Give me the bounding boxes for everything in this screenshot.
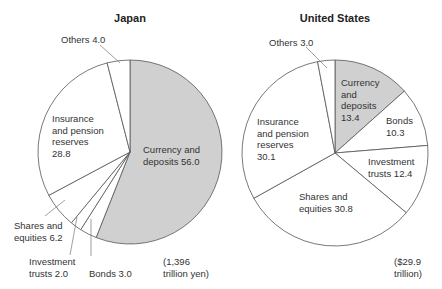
japan-title: Japan	[100, 12, 160, 24]
japan-label-shares: Shares and equities 6.2	[14, 220, 63, 243]
japan-label-currency: Currency and deposits 56.0	[143, 144, 200, 167]
japan-label-investment: Investment trusts 2.0	[29, 256, 75, 279]
japan-label-others: Others 4.0	[61, 34, 105, 46]
us-label-investment: Investment trusts 12.4	[368, 156, 414, 179]
us-total-note: ($29.9 trillion)	[394, 256, 422, 279]
japan-total-note: (1,396 trillion yen)	[163, 256, 209, 279]
japan-label-insurance: Insurance and pension reserves 28.8	[52, 113, 104, 159]
leader-japan-others	[100, 45, 120, 63]
us-label-bonds: Bonds 10.3	[386, 115, 413, 138]
us-label-others: Others 3.0	[269, 37, 313, 49]
us-label-shares: Shares and equities 30.8	[299, 191, 353, 214]
us-title: United States	[280, 12, 390, 24]
us-label-currency: Currency and deposits 13.4	[341, 77, 380, 123]
japan-label-bonds: Bonds 3.0	[89, 268, 132, 280]
us-label-insurance: Insurance and pension reserves 30.1	[257, 116, 309, 162]
